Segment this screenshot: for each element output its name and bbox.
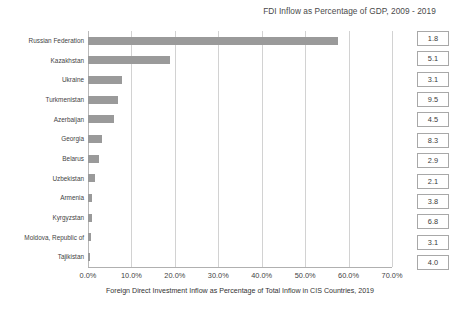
x-tick-label: 10.0% [108, 271, 154, 280]
category-label: Belarus [0, 155, 84, 162]
category-label: Georgia [0, 135, 84, 142]
y-axis-category-labels: Russian FederationKazakhstanUkraineTurkm… [0, 31, 84, 267]
category-label: Ukraine [0, 76, 84, 83]
bar-row [88, 129, 392, 149]
bar-row [88, 169, 392, 189]
category-label: Russian Federation [0, 37, 84, 44]
bar[interactable] [88, 76, 122, 84]
category-label: Moldova, Republic of [0, 234, 84, 241]
bar-row [88, 70, 392, 90]
plot-area [88, 31, 392, 267]
bar[interactable] [88, 115, 114, 123]
category-label: Tajikistan [0, 253, 84, 260]
chart-title: FDI Inflow as Percentage of GDP, 2009 - … [228, 6, 471, 16]
bar-chart: FDI Inflow as Percentage of GDP, 2009 - … [0, 0, 473, 311]
bar[interactable] [88, 96, 118, 104]
bar-row [88, 51, 392, 71]
category-label: Turkmenistan [0, 96, 84, 103]
x-tick-label: 30.0% [195, 271, 241, 280]
bar[interactable] [88, 155, 99, 163]
category-label: Uzbekistan [0, 175, 84, 182]
bar[interactable] [88, 37, 338, 45]
value-box: 2.1 [417, 174, 449, 189]
bar-row [88, 90, 392, 110]
value-box: 3.1 [417, 235, 449, 250]
value-box: 8.3 [417, 133, 449, 148]
x-axis-title: Foreign Direct Investment Inflow as Perc… [88, 287, 392, 295]
bar[interactable] [88, 253, 90, 261]
value-box: 3.1 [417, 72, 449, 87]
category-label: Armenia [0, 194, 84, 201]
bar[interactable] [88, 214, 92, 222]
bar[interactable] [88, 135, 102, 143]
x-axis-line [88, 267, 392, 268]
value-box: 1.8 [417, 31, 449, 46]
x-tick-label: 40.0% [239, 271, 285, 280]
bar-row [88, 247, 392, 267]
x-tick-label: 50.0% [282, 271, 328, 280]
x-tick-label: 0.0% [65, 271, 111, 280]
value-box: 4.5 [417, 112, 449, 127]
bar[interactable] [88, 56, 170, 64]
x-tick-label: 20.0% [152, 271, 198, 280]
value-box: 6.8 [417, 214, 449, 229]
bar[interactable] [88, 233, 91, 241]
value-box: 4.0 [417, 255, 449, 270]
value-box: 3.8 [417, 194, 449, 209]
x-tick-label: 60.0% [326, 271, 372, 280]
bar[interactable] [88, 194, 92, 202]
bar-row [88, 188, 392, 208]
value-annotation-boxes: 1.85.13.19.54.58.32.92.13.86.83.14.0 [417, 28, 463, 273]
value-box: 5.1 [417, 51, 449, 66]
bar-row [88, 228, 392, 248]
bar[interactable] [88, 174, 95, 182]
bar-row [88, 149, 392, 169]
value-box: 9.5 [417, 92, 449, 107]
bars-layer [88, 31, 392, 267]
value-box: 2.9 [417, 153, 449, 168]
x-tick-label: 70.0% [369, 271, 415, 280]
category-label: Azerbaijan [0, 116, 84, 123]
bar-row [88, 31, 392, 51]
x-axis-tick-labels: 0.0%10.0%20.0%30.0%40.0%50.0%60.0%70.0% [0, 271, 473, 285]
gridline-70.0 [392, 31, 393, 267]
category-label: Kyrgyzstan [0, 214, 84, 221]
category-label: Kazakhstan [0, 57, 84, 64]
bar-row [88, 110, 392, 130]
bar-row [88, 208, 392, 228]
